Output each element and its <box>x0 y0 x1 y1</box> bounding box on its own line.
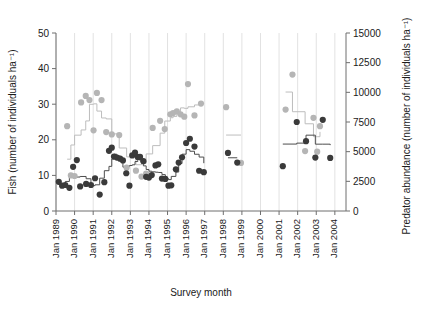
fish-data-point <box>294 119 300 125</box>
fish-data-point <box>126 183 132 189</box>
predator-data-point <box>86 97 92 103</box>
predator-data-point <box>157 118 163 124</box>
fish-data-point <box>280 163 286 169</box>
fish-data-point <box>92 175 98 181</box>
predator-data-point <box>109 131 115 137</box>
fish-data-point <box>123 170 129 176</box>
predator-data-point <box>133 168 139 174</box>
x-tick-label: Jan 1996 <box>180 219 191 258</box>
fish-data-point <box>77 183 83 189</box>
predator-data-point <box>289 71 295 77</box>
fish-data-point <box>234 159 240 165</box>
x-tick-label: Jan 1991 <box>87 219 98 258</box>
y-axis-left-title: Fish (number of individuals ha⁻¹) <box>7 49 18 194</box>
fish-data-point <box>327 155 333 161</box>
fish-data-point <box>74 157 80 163</box>
fish-data-point <box>303 138 309 144</box>
predator-data-point <box>78 99 84 105</box>
fish-trend-line <box>59 135 330 185</box>
predator-data-point <box>282 106 288 112</box>
chart-svg: Jan 1989Jan 1990Jan 1991Jan 1992Jan 1993… <box>0 0 422 311</box>
x-axis-ticks-group: Jan 1989Jan 1990Jan 1991Jan 1992Jan 1993… <box>50 211 340 258</box>
y-left-tick-label: 30 <box>38 99 50 110</box>
x-tick-label: Jan 1995 <box>161 219 172 258</box>
predator-data-point <box>116 132 122 138</box>
predator-data-point <box>198 101 204 107</box>
fish-data-point <box>225 150 231 156</box>
x-tick-label: Jan 2001 <box>273 219 284 258</box>
predator-data-point <box>181 114 187 120</box>
x-tick-label: Jan 1998 <box>217 219 228 258</box>
predator-data-point <box>71 173 77 179</box>
predator-data-point <box>314 149 320 155</box>
predator-data-point <box>191 112 197 118</box>
predator-data-point <box>223 104 229 110</box>
x-tick-label: Jan 1994 <box>142 219 153 258</box>
fish-data-point <box>173 166 179 172</box>
y-axis-right-ticks-group: 0250050007500100001250015000 <box>346 28 381 217</box>
x-tick-label: Jan 1999 <box>235 219 246 258</box>
predator-data-point <box>124 165 130 171</box>
y-left-tick-label: 40 <box>38 63 50 74</box>
y-axis-right-title: Predator abundance (number of individual… <box>401 18 412 235</box>
y-left-tick-label: 10 <box>38 170 50 181</box>
fish-data-points <box>56 117 334 198</box>
fish-data-point <box>97 192 103 198</box>
chart-figure: Jan 1989Jan 1990Jan 1991Jan 1992Jan 1993… <box>0 0 422 311</box>
x-tick-label: Jan 2002 <box>291 219 302 258</box>
y-right-tick-label: 15000 <box>353 28 381 39</box>
predator-data-point <box>90 127 96 133</box>
predator-data-point <box>64 123 70 129</box>
predator-data-point <box>162 126 168 132</box>
fish-data-point <box>120 157 126 163</box>
predator-trend-segment <box>286 92 320 137</box>
x-tick-label: Jan 2000 <box>254 219 265 258</box>
y-right-tick-label: 5000 <box>353 146 376 157</box>
predator-data-point <box>98 97 104 103</box>
x-tick-label: Jan 2004 <box>328 219 339 258</box>
fish-data-point <box>149 172 155 178</box>
y-left-tick-label: 0 <box>43 206 49 217</box>
x-tick-label: Jan 1990 <box>68 219 79 258</box>
y-right-tick-label: 12500 <box>353 57 381 68</box>
x-tick-label: Jan 1993 <box>124 219 135 258</box>
x-axis-title: Survey month <box>170 287 232 298</box>
x-tick-label: Jan 2003 <box>310 219 321 258</box>
fish-data-point <box>320 117 326 123</box>
fish-data-point <box>88 182 94 188</box>
y-left-tick-label: 50 <box>38 28 50 39</box>
predator-data-point <box>185 81 191 87</box>
predator-data-point <box>302 148 308 154</box>
predator-data-point <box>94 90 100 96</box>
y-right-tick-label: 2500 <box>353 176 376 187</box>
fish-data-point <box>101 179 107 185</box>
fish-data-point <box>70 164 76 170</box>
fish-data-point <box>155 161 161 167</box>
predator-trend-line <box>67 92 320 165</box>
fish-data-point <box>109 145 115 151</box>
x-tick-label: Jan 1992 <box>105 219 116 258</box>
fish-data-point <box>191 143 197 149</box>
predator-data-point <box>150 125 156 131</box>
predator-data-point <box>310 115 316 121</box>
predator-data-point <box>317 123 323 129</box>
fish-data-point <box>179 154 185 160</box>
fish-data-point <box>168 182 174 188</box>
x-tick-label: Jan 1989 <box>50 219 61 258</box>
y-right-tick-label: 0 <box>353 206 359 217</box>
fish-data-point <box>140 158 146 164</box>
predator-data-point <box>103 129 109 135</box>
y-right-tick-label: 7500 <box>353 117 376 128</box>
fish-data-point <box>162 176 168 182</box>
y-left-tick-label: 20 <box>38 134 50 145</box>
fish-data-point <box>176 159 182 165</box>
fish-data-point <box>201 169 207 175</box>
x-tick-label: Jan 1997 <box>198 219 209 258</box>
fish-data-point <box>66 185 72 191</box>
fish-data-point <box>187 136 193 142</box>
y-axis-left-ticks-group: 01020304050 <box>38 28 56 217</box>
fish-data-point <box>312 155 318 161</box>
y-right-tick-label: 10000 <box>353 87 381 98</box>
